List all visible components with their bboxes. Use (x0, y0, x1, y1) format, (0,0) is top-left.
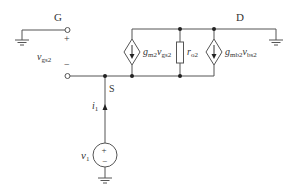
current-arrow-icon (103, 104, 108, 110)
circuit-schematic: G D S + − vgs2 gm2vgs2 ro2 gmb2vbs2 i1 v… (0, 0, 292, 189)
source-label: S (109, 83, 115, 94)
drain-label: D (236, 11, 244, 23)
ro2-label: ro2 (187, 46, 198, 59)
v1-label: v1 (81, 149, 90, 163)
gate-label: G (54, 11, 62, 23)
source-terminal (65, 74, 70, 79)
v1-minus: − (102, 156, 107, 166)
gm2-vgs2-label: gm2vgs2 (143, 46, 172, 59)
gate-ground-wire (22, 30, 65, 40)
i1-label: i1 (92, 100, 99, 113)
ground-icon (15, 40, 29, 45)
vgs-label: vgs2 (37, 51, 52, 64)
ground-icon (269, 40, 283, 45)
ground-icon (98, 178, 112, 183)
dependent-current-source-1 (124, 39, 140, 65)
drain-bus-wire (132, 29, 276, 40)
circuit-diagram: G D S + − vgs2 gm2vgs2 ro2 gmb2vbs2 i1 v… (0, 0, 292, 189)
vgs-minus: − (64, 59, 70, 70)
gmb2-vbs2-label: gmb2vbs2 (225, 46, 257, 59)
vgs-plus: + (64, 33, 70, 44)
v1-plus: + (102, 145, 107, 155)
gate-terminal (65, 28, 70, 33)
dependent-current-source-2 (206, 39, 222, 65)
resistor-ro2 (177, 42, 184, 63)
